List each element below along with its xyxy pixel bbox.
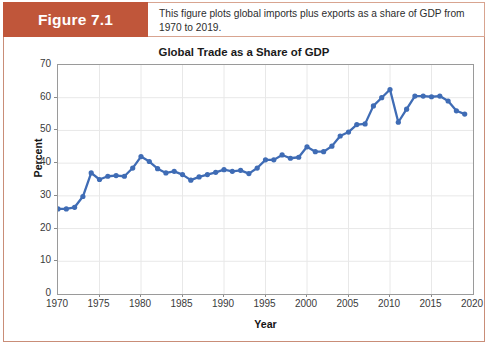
- plot-area: [57, 64, 474, 295]
- x-tick-label: 1975: [79, 298, 119, 309]
- x-tick-label: 2020: [452, 298, 488, 309]
- x-tick-label: 1990: [203, 298, 243, 309]
- y-tick-label: 0: [17, 287, 51, 298]
- chart-container: Global Trade as a Share of GDP Percent Y…: [4, 37, 484, 341]
- figure-root: Figure 7.1 This figure plots global impo…: [0, 0, 488, 345]
- figure-caption-box: This figure plots global imports plus ex…: [148, 2, 485, 37]
- y-tick-label: 20: [17, 222, 51, 233]
- x-tick-label: 2005: [328, 298, 368, 309]
- y-tick-label: 40: [17, 156, 51, 167]
- y-tick-label: 70: [17, 58, 51, 69]
- x-tick-label: 1970: [37, 298, 77, 309]
- figure-number-badge: Figure 7.1: [3, 2, 148, 37]
- y-tick-label: 60: [17, 91, 51, 102]
- x-tick-label: 1985: [162, 298, 202, 309]
- y-tick-label: 50: [17, 123, 51, 134]
- chart-title: Global Trade as a Share of GDP: [4, 46, 484, 58]
- x-tick-label: 1995: [245, 298, 285, 309]
- figure-number-label: Figure 7.1: [38, 11, 113, 29]
- x-tick-label: 1980: [120, 298, 160, 309]
- x-tick-label: 2010: [369, 298, 409, 309]
- x-axis-title: Year: [57, 318, 474, 330]
- trade-share-line-chart: [58, 65, 473, 294]
- y-tick-label: 30: [17, 189, 51, 200]
- figure-header: Figure 7.1 This figure plots global impo…: [3, 2, 485, 37]
- figure-caption-text: This figure plots global imports plus ex…: [159, 7, 475, 35]
- x-tick-label: 2015: [411, 298, 451, 309]
- x-tick-label: 2000: [286, 298, 326, 309]
- y-tick-label: 10: [17, 254, 51, 265]
